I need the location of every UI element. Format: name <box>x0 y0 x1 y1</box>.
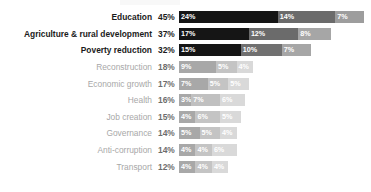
stacked-bar-chart: Education45%24%14%7%Agriculture & rural … <box>0 0 371 192</box>
stacked-bar: 5%5%4% <box>179 127 371 139</box>
row-category-label: Poverty reduction <box>0 45 158 55</box>
stacked-bar: 17%12%8% <box>179 28 371 40</box>
bar-segment: 5% <box>179 127 200 139</box>
bar-segment: 6% <box>212 144 237 156</box>
bar-area: 17%12%8% <box>179 28 371 40</box>
bar-segment: 6% <box>195 111 220 123</box>
row-category-label: Health <box>0 95 158 105</box>
row-category-label: Education <box>0 12 158 22</box>
bar-segment: 4% <box>195 144 211 156</box>
row-category-label: Anti-corruption <box>0 145 158 155</box>
bar-segment: 9% <box>179 61 216 73</box>
row-category-label: Economic growth <box>0 79 158 89</box>
bar-segment: 12% <box>249 28 298 40</box>
bar-segment: 3% <box>179 94 191 106</box>
chart-row: Education45%24%14%7% <box>0 9 371 26</box>
stacked-bar: 4%6%5% <box>179 111 371 123</box>
bar-segment: 14% <box>278 11 336 23</box>
stacked-bar: 15%10%7% <box>179 44 371 56</box>
row-total-value: 16% <box>158 95 179 105</box>
bar-segment: 24% <box>179 11 278 23</box>
bar-segment: 7% <box>179 78 208 90</box>
bar-area: 3%7%6% <box>179 94 371 106</box>
bar-segment: 6% <box>220 94 245 106</box>
row-total-value: 12% <box>158 162 179 172</box>
stacked-bar: 9%5%4% <box>179 61 371 73</box>
bar-area: 24%14%7% <box>179 11 371 23</box>
bar-segment: 4% <box>220 127 236 139</box>
bar-segment: 4% <box>179 144 195 156</box>
stacked-bar: 7%5%5% <box>179 78 371 90</box>
row-total-value: 32% <box>158 45 179 55</box>
row-category-label: Job creation <box>0 112 158 122</box>
chart-row: Agriculture & rural development37%17%12%… <box>0 26 371 43</box>
bar-segment: 17% <box>179 28 249 40</box>
bar-segment: 5% <box>200 127 221 139</box>
row-total-value: 14% <box>158 145 179 155</box>
row-category-label: Transport <box>0 162 158 172</box>
row-total-value: 37% <box>158 29 179 39</box>
chart-row: Job creation15%4%6%5% <box>0 109 371 126</box>
bar-segment: 5% <box>216 61 237 73</box>
row-category-label: Agriculture & rural development <box>0 29 158 39</box>
bar-segment: 4% <box>195 161 211 173</box>
bar-area: 5%5%4% <box>179 127 371 139</box>
bar-segment: 15% <box>179 44 241 56</box>
bar-segment: 7% <box>335 11 364 23</box>
row-total-value: 45% <box>158 12 179 22</box>
chart-row: Reconstruction18%9%5%4% <box>0 59 371 76</box>
stacked-bar: 4%4%4% <box>179 161 371 173</box>
bar-area: 9%5%4% <box>179 61 371 73</box>
bar-segment: 5% <box>220 111 241 123</box>
bar-segment: 4% <box>212 161 228 173</box>
bar-area: 15%10%7% <box>179 44 371 56</box>
chart-row: Governance14%5%5%4% <box>0 125 371 142</box>
bar-segment: 4% <box>179 111 195 123</box>
chart-row: Poverty reduction32%15%10%7% <box>0 42 371 59</box>
row-total-value: 18% <box>158 62 179 72</box>
chart-row: Economic growth17%7%5%5% <box>0 75 371 92</box>
chart-rows: Education45%24%14%7%Agriculture & rural … <box>0 9 371 175</box>
cropped-header-fragment <box>120 0 180 5</box>
row-total-value: 17% <box>158 79 179 89</box>
bar-segment: 4% <box>179 161 195 173</box>
bar-segment: 7% <box>191 94 220 106</box>
bar-segment: 5% <box>208 78 229 90</box>
bar-segment: 8% <box>298 28 331 40</box>
bar-area: 4%4%6% <box>179 144 371 156</box>
stacked-bar: 3%7%6% <box>179 94 371 106</box>
row-category-label: Governance <box>0 128 158 138</box>
bar-area: 4%6%5% <box>179 111 371 123</box>
chart-row: Anti-corruption14%4%4%6% <box>0 142 371 159</box>
chart-row: Health16%3%7%6% <box>0 92 371 109</box>
row-total-value: 14% <box>158 128 179 138</box>
chart-row: Transport12%4%4%4% <box>0 158 371 175</box>
bar-segment: 10% <box>241 44 282 56</box>
bar-segment: 4% <box>237 61 253 73</box>
bar-segment: 5% <box>228 78 249 90</box>
stacked-bar: 4%4%6% <box>179 144 371 156</box>
bar-area: 4%4%4% <box>179 161 371 173</box>
bar-area: 7%5%5% <box>179 78 371 90</box>
row-category-label: Reconstruction <box>0 62 158 72</box>
bar-segment: 7% <box>282 44 311 56</box>
stacked-bar: 24%14%7% <box>179 11 371 23</box>
row-total-value: 15% <box>158 112 179 122</box>
